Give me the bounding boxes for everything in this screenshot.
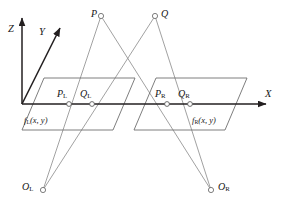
function-label-right-plane: fR(x, y)	[192, 116, 216, 126]
point-PR-marker	[165, 102, 170, 107]
point-label-OL-sub: L	[29, 185, 33, 192]
point-QL-marker	[90, 102, 95, 107]
point-P-marker	[98, 13, 103, 18]
point-label-PL-sub: L	[63, 92, 67, 99]
point-label-OR: OR	[218, 182, 230, 193]
scene-point-markers	[98, 13, 157, 18]
point-label-OR-sub: R	[225, 185, 230, 192]
function-label-left-args: (x, y)	[30, 115, 47, 125]
point-QR-marker	[188, 102, 193, 107]
point-label-QL: QL	[80, 89, 92, 100]
point-label-PL: PL	[57, 89, 67, 100]
function-label-right-args: (x, y)	[198, 115, 215, 125]
point-OL-marker	[40, 187, 45, 192]
point-label-P: P	[91, 9, 97, 19]
point-label-PR: PR	[155, 89, 166, 100]
ray-left-center-to-Q	[43, 16, 155, 190]
point-OR-marker	[208, 187, 213, 192]
function-label-left-plane: fL(x, y)	[24, 116, 47, 126]
point-Q-marker	[152, 13, 157, 18]
axis-label-x: X	[265, 89, 271, 100]
point-label-QR: QR	[178, 89, 190, 100]
axis-label-y: Y	[39, 27, 45, 38]
point-label-QL-sub: L	[87, 92, 91, 99]
ray-right-center-to-Q	[155, 16, 211, 190]
axis-label-z: Z	[8, 24, 14, 35]
point-label-QR-sub: R	[185, 92, 190, 99]
point-label-Q: Q	[161, 9, 168, 19]
ray-right-center-to-P	[101, 16, 211, 190]
point-label-PR-sub: R	[161, 92, 166, 99]
point-PL-marker	[67, 102, 72, 107]
y-axis	[22, 28, 60, 104]
point-label-OL: OL	[22, 182, 34, 193]
camera-center-markers	[40, 187, 213, 192]
stereo-geometry-diagram: Z Y X P Q PL QL PR QR OL OR fL(x, y) fR(…	[0, 0, 298, 214]
